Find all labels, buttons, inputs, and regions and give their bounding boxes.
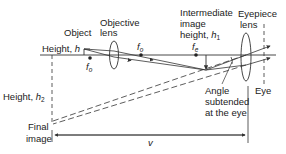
eyepiece-lens — [241, 33, 251, 81]
ray-arrow-1 — [150, 60, 153, 61]
label-height-h2: Height, h2 — [3, 91, 45, 103]
ray-objective-2b — [114, 57, 206, 70]
label-objective-2: lens — [100, 27, 118, 38]
label-final-2: image — [26, 133, 52, 144]
ray-eyepiece-1-out — [246, 46, 270, 55]
label-eyepiece-2: lens — [240, 19, 258, 30]
label-intermediate-1: Intermediate — [180, 7, 233, 18]
label-final-1: Final — [28, 121, 49, 132]
angle-pointer — [222, 62, 232, 84]
label-fe: fe — [192, 41, 199, 53]
focal-point-fo-left — [88, 56, 92, 60]
label-object: Object — [64, 27, 92, 38]
label-fo-right: fo — [137, 41, 144, 53]
microscope-ray-diagram: Object Objective lens Height, h fo fo fe… — [0, 0, 286, 154]
label-fo-left: fo — [86, 61, 93, 73]
label-height-h: Height, h — [42, 43, 80, 54]
label-eyepiece-1: Eyepiece — [238, 8, 277, 19]
label-angle-1: Angle — [205, 85, 229, 96]
label-intermediate-3: height, h1 — [180, 29, 220, 41]
label-angle-2: subtended — [205, 96, 249, 107]
label-v: v — [148, 137, 154, 148]
focal-point-fe — [194, 53, 198, 57]
ray-objective-1b — [114, 51, 206, 70]
label-angle-3: at the eye — [205, 107, 247, 118]
label-eye: Eye — [255, 85, 271, 96]
label-intermediate-2: image — [180, 18, 206, 29]
ray-eyepiece-2-out — [246, 58, 270, 65]
